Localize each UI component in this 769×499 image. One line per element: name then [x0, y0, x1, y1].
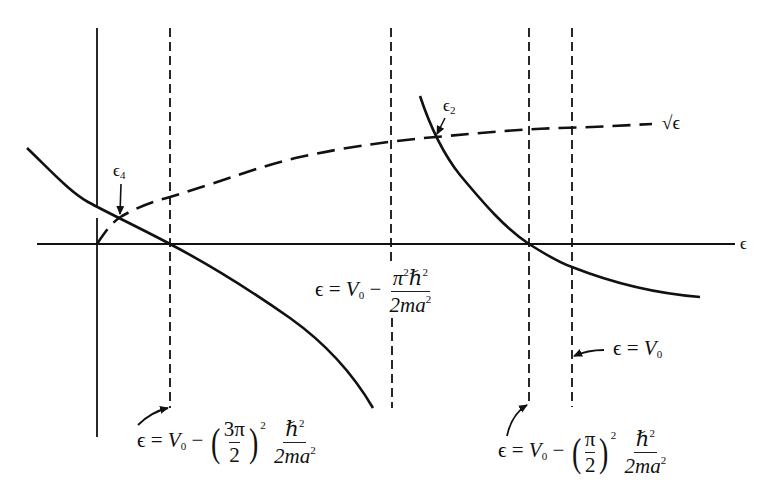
equals: =: [329, 277, 341, 301]
sqrt-epsilon-curve: [97, 124, 652, 244]
v-symbol: V: [644, 336, 657, 360]
asymptote-label-pi-squared: ϵ = V0 − π2ℏ2 2ma2: [315, 267, 434, 316]
left-paren: (: [211, 423, 220, 463]
minus: −: [191, 428, 203, 452]
eps2-arrow: [437, 118, 445, 134]
fraction-denominator: 2ma2: [625, 453, 667, 477]
v-symbol: V: [529, 438, 542, 462]
v-subscript: 0: [181, 440, 187, 452]
v-symbol: V: [168, 428, 181, 452]
paren-fraction: 3π2: [222, 419, 247, 466]
sqrt-epsilon-label: √ϵ: [662, 113, 680, 132]
equals: =: [151, 428, 163, 452]
asymptote-label-v0: ϵ = V0: [613, 338, 662, 360]
fraction-numerator: π2ℏ2: [391, 267, 430, 292]
epsilon-axis-label: ϵ: [740, 235, 747, 252]
fraction: ℏ2 2ma2: [625, 428, 667, 477]
v-symbol: V: [346, 277, 359, 301]
eps2-base: ϵ: [443, 96, 450, 115]
v-subscript: 0: [359, 289, 365, 301]
right-paren: ): [249, 423, 258, 463]
power: 2: [260, 419, 266, 431]
lhs: ϵ: [315, 277, 324, 301]
fraction-numerator: ℏ2: [634, 428, 657, 453]
eps2-subscript: 2: [450, 104, 456, 116]
eps4-subscript: 4: [120, 169, 126, 181]
eps4-base: ϵ: [113, 161, 120, 180]
right-paren: ): [599, 433, 608, 473]
eps4-arrow: [120, 184, 121, 214]
lhs: ϵ: [498, 438, 507, 462]
equals: =: [512, 438, 524, 462]
arrow-v0: [574, 350, 604, 356]
asymptote-label-pi-over-two: ϵ = V0 − (π2)2 ℏ2 2ma2: [498, 428, 669, 477]
fraction-denominator: 2ma2: [390, 292, 432, 316]
fraction: ℏ2 2ma2: [274, 418, 316, 467]
lhs: ϵ: [613, 336, 622, 360]
fraction: π2ℏ2 2ma2: [390, 267, 432, 316]
fraction-numerator: ℏ2: [283, 418, 306, 443]
minus: −: [369, 277, 381, 301]
right-branch-curve: [420, 96, 700, 297]
left-paren: (: [572, 433, 581, 473]
v-subscript: 0: [542, 450, 548, 462]
equals: =: [627, 336, 639, 360]
minus: −: [552, 438, 564, 462]
diagram-canvas: [0, 0, 769, 499]
asymptote-label-three-pi-over-two: ϵ = V0 − (3π2)2 ℏ2 2ma2: [137, 418, 319, 467]
v-subscript: 0: [657, 348, 663, 360]
power: 2: [611, 429, 617, 441]
paren-fraction: π2: [583, 429, 598, 476]
fraction-denominator: 2ma2: [274, 443, 316, 467]
eps2-label: ϵ2: [443, 97, 455, 116]
eps4-label: ϵ4: [113, 162, 125, 181]
lhs: ϵ: [137, 428, 146, 452]
